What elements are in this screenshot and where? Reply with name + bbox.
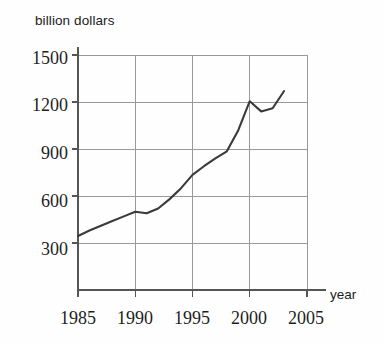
data-series-line (78, 91, 284, 236)
axis-ticks (72, 55, 307, 297)
plot-area (0, 0, 384, 344)
gridlines (78, 55, 307, 290)
line-chart-figure: billion dollars year 1500 1200 900 600 3… (0, 0, 384, 344)
